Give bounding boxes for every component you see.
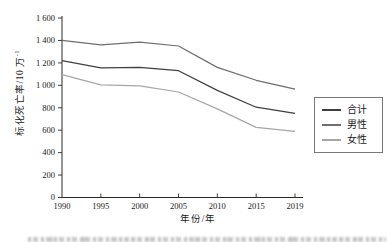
legend-line-swatch-male — [322, 124, 341, 126]
y-tick-label: 1 400 — [36, 35, 55, 45]
x-tick-label: 2010 — [209, 201, 226, 211]
x-tick-label: 2005 — [170, 201, 187, 211]
line-chart-figure: 02004006008001 0001 2001 4001 6001990199… — [0, 0, 390, 242]
y-tick-label: 800 — [42, 103, 55, 113]
y-axis-title: 标化死亡率/10 万-1 — [12, 50, 26, 136]
series-line-2 — [62, 75, 295, 132]
legend-item-total: 合计 — [322, 105, 382, 115]
y-tick-label: 1 200 — [36, 58, 55, 68]
x-tick-label: 2000 — [131, 201, 148, 211]
truncated-caption-strip — [28, 237, 386, 242]
x-tick-label: 1990 — [54, 201, 71, 211]
legend-label-male: 男性 — [347, 120, 367, 130]
y-axis-title-superscript: -1 — [13, 50, 20, 56]
y-tick-label: 1 600 — [36, 13, 55, 23]
legend: 合计 男性 女性 — [314, 97, 383, 153]
series-line-1 — [62, 40, 295, 89]
legend-line-swatch-female — [322, 139, 341, 141]
axes — [62, 16, 304, 198]
data-series — [62, 40, 295, 131]
y-tick-label: 400 — [42, 147, 55, 157]
x-tick-label: 2019 — [287, 201, 304, 211]
x-axis-title: 年份/年 — [180, 211, 217, 225]
legend-label-female: 女性 — [347, 135, 367, 145]
legend-line-swatch-total — [322, 109, 341, 111]
legend-item-female: 女性 — [322, 135, 382, 145]
series-line-0 — [62, 61, 295, 114]
x-tick-label: 1995 — [92, 201, 109, 211]
y-tick-label: 600 — [42, 125, 55, 135]
x-tick-label: 2015 — [248, 201, 265, 211]
legend-label-total: 合计 — [347, 105, 367, 115]
legend-item-male: 男性 — [322, 120, 382, 130]
y-tick-label: 200 — [42, 170, 55, 180]
y-axis-title-text: 标化死亡率/10 万 — [15, 56, 25, 136]
y-tick-label: 1 000 — [36, 80, 55, 90]
